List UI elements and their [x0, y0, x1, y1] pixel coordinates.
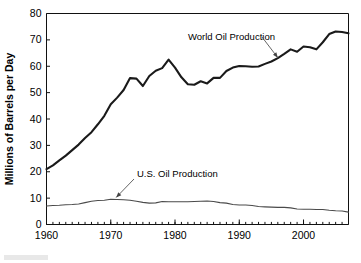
chart-canvas: 01020304050607080 19601970198019902000 M… — [0, 0, 361, 263]
x-tick-label: 1970 — [99, 229, 123, 241]
y-tick-label: 30 — [30, 139, 42, 151]
y-tick-label: 70 — [30, 33, 42, 45]
chart-background — [0, 0, 361, 263]
us-annotation-label: U.S. Oil Production — [137, 168, 218, 179]
y-tick-label: 10 — [30, 192, 42, 204]
world-annotation-label: World Oil Production — [188, 31, 275, 42]
y-tick-label: 50 — [30, 86, 42, 98]
y-axis-tick-labels: 01020304050607080 — [30, 7, 42, 230]
y-tick-label: 40 — [30, 113, 42, 125]
y-tick-label: 60 — [30, 60, 42, 72]
y-axis-title: Millions of Barrels per Day — [3, 53, 15, 186]
x-tick-label: 1990 — [228, 229, 252, 241]
cropped-caption-fragment — [4, 255, 48, 260]
oil-production-chart: 01020304050607080 19601970198019902000 M… — [0, 0, 361, 263]
y-tick-label: 20 — [30, 165, 42, 177]
y-tick-label: 80 — [30, 7, 42, 19]
x-tick-label: 1980 — [163, 229, 187, 241]
x-tick-label: 1960 — [35, 229, 59, 241]
x-tick-label: 2000 — [292, 229, 316, 241]
